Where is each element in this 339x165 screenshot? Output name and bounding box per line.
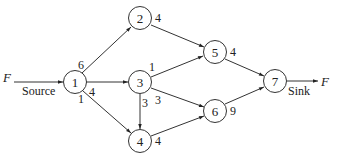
node-3-label: 3	[137, 75, 144, 90]
sink-label: Sink	[288, 84, 310, 98]
node-1: 1	[64, 71, 87, 94]
capacity-1-2: 6	[78, 58, 84, 72]
source-label: Source	[22, 84, 55, 98]
capacity-4-6: 4	[155, 134, 161, 148]
capacity-5-7: 4	[230, 45, 236, 59]
node-4-label: 4	[137, 134, 144, 149]
node-2: 2	[129, 7, 152, 30]
edge-4-6	[151, 116, 204, 136]
capacity-6-7: 9	[230, 104, 236, 118]
edge-2-5	[151, 25, 204, 47]
node-4: 4	[129, 130, 152, 153]
edge-6-7	[225, 87, 264, 104]
node-2-label: 2	[137, 11, 144, 26]
edge-3-5	[151, 56, 203, 77]
node-7-label: 7	[272, 74, 279, 89]
flow-out-label: F	[320, 74, 330, 89]
capacity-1-4: 1	[78, 92, 84, 106]
capacity-3-5: 1	[149, 60, 155, 74]
node-5: 5	[204, 41, 227, 64]
node-7: 7	[264, 70, 287, 93]
node-6-label: 6	[212, 104, 219, 119]
capacity-1-3: 4	[89, 85, 95, 99]
flow-in-label: F	[2, 70, 12, 85]
capacity-3-4: 3	[142, 96, 148, 110]
node-6: 6	[204, 100, 227, 123]
capacity-2-5: 4	[155, 11, 161, 25]
flow-network-diagram: 6 4 1 4 1 3 3 4 4 9 F Source Sink F 1 2 …	[0, 0, 339, 165]
node-5-label: 5	[212, 45, 219, 60]
node-3: 3	[129, 71, 152, 94]
edge-5-7	[225, 59, 264, 76]
node-1-label: 1	[72, 75, 79, 90]
capacity-3-6: 3	[155, 93, 161, 107]
edge-1-2	[82, 27, 131, 73]
capacity-labels: 6 4 1 4 1 3 3 4 4 9	[78, 11, 236, 148]
